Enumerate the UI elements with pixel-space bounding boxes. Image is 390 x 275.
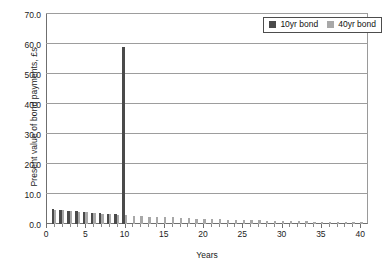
bar-40yr-bond xyxy=(282,221,284,224)
y-tick-label: 20.0 xyxy=(24,160,41,170)
bar-40yr-bond xyxy=(211,219,213,224)
x-tick-minor xyxy=(62,224,63,227)
bar-40yr-bond xyxy=(329,222,331,224)
bar-40yr-bond xyxy=(235,220,237,224)
bar-40yr-bond xyxy=(101,214,103,225)
bar-40yr-bond xyxy=(321,222,323,224)
y-tick-label: 70.0 xyxy=(24,10,41,20)
x-tick-minor xyxy=(305,224,306,227)
x-tick-major xyxy=(360,224,361,228)
x-tick-minor xyxy=(187,224,188,227)
x-tick-label: 20 xyxy=(198,229,207,239)
x-tick-major xyxy=(282,224,283,228)
bar-40yr-bond xyxy=(93,213,95,224)
x-tick-minor xyxy=(258,224,259,227)
gridline xyxy=(46,73,368,74)
x-tick-minor xyxy=(77,224,78,227)
bar-40yr-bond xyxy=(266,221,268,224)
bar-40yr-bond xyxy=(164,217,166,224)
x-tick-major xyxy=(46,224,47,228)
x-tick-minor xyxy=(227,224,228,227)
bar-40yr-bond xyxy=(125,215,127,224)
x-tick-minor xyxy=(140,224,141,227)
x-tick-major xyxy=(242,224,243,228)
x-tick-minor xyxy=(101,224,102,227)
x-tick-minor xyxy=(250,224,251,227)
bar-40yr-bond xyxy=(250,220,252,224)
bar-10yr-bond xyxy=(52,209,54,224)
bar-40yr-bond xyxy=(352,222,354,224)
bar-40yr-bond xyxy=(243,220,245,224)
legend-label-10yr: 10yr bond xyxy=(280,20,318,29)
x-tick-label: 15 xyxy=(159,229,168,239)
bar-40yr-bond xyxy=(85,212,87,224)
bar-40yr-bond xyxy=(298,221,300,224)
bar-40yr-bond xyxy=(54,210,56,224)
x-axis-title: Years xyxy=(46,250,368,260)
x-tick-label: 10 xyxy=(120,229,129,239)
x-tick-minor xyxy=(352,224,353,227)
x-tick-major xyxy=(164,224,165,228)
bar-40yr-bond xyxy=(78,212,80,224)
bar-40yr-bond xyxy=(188,218,190,224)
bar-40yr-bond xyxy=(274,221,276,224)
x-tick-label: 0 xyxy=(44,229,49,239)
chart-legend: 10yr bond 40yr bond xyxy=(263,17,382,33)
bar-10yr-bond xyxy=(122,47,124,224)
x-tick-major xyxy=(125,224,126,228)
y-tick-label: 60.0 xyxy=(24,40,41,50)
bar-40yr-bond xyxy=(219,219,221,224)
bar-40yr-bond xyxy=(117,215,119,224)
x-tick-minor xyxy=(297,224,298,227)
x-tick-minor xyxy=(219,224,220,227)
x-tick-minor xyxy=(234,224,235,227)
bar-40yr-bond xyxy=(227,220,229,225)
x-tick-major xyxy=(321,224,322,228)
gridline xyxy=(46,133,368,134)
bar-10yr-bond xyxy=(59,210,61,224)
x-tick-minor xyxy=(132,224,133,227)
x-tick-minor xyxy=(211,224,212,227)
bar-40yr-bond xyxy=(290,221,292,224)
x-tick-minor xyxy=(180,224,181,227)
gridline xyxy=(46,43,368,44)
y-tick-label: 10.0 xyxy=(24,190,41,200)
bar-40yr-bond xyxy=(345,222,347,224)
bar-10yr-bond xyxy=(107,214,109,224)
x-tick-minor xyxy=(156,224,157,227)
x-tick-major xyxy=(203,224,204,228)
bar-10yr-bond xyxy=(114,214,116,224)
bar-10yr-bond xyxy=(99,213,101,224)
y-tick-label: 40.0 xyxy=(24,100,41,110)
x-tick-minor xyxy=(337,224,338,227)
gridline xyxy=(46,163,368,164)
bar-10yr-bond xyxy=(67,211,69,225)
x-tick-minor xyxy=(117,224,118,227)
bar-40yr-bond xyxy=(313,222,315,224)
bar-10yr-bond xyxy=(91,213,93,224)
x-tick-label: 35 xyxy=(316,229,325,239)
x-tick-minor xyxy=(329,224,330,227)
bond-payments-chart: Present value of bond payments, £s 0.010… xyxy=(0,0,390,275)
gridline xyxy=(46,193,368,194)
bar-40yr-bond xyxy=(133,216,135,224)
bar-40yr-bond xyxy=(195,219,197,224)
gridline xyxy=(46,103,368,104)
bar-40yr-bond xyxy=(109,214,111,224)
x-tick-label: 40 xyxy=(355,229,364,239)
bar-40yr-bond xyxy=(140,216,142,224)
x-tick-minor xyxy=(172,224,173,227)
bar-40yr-bond xyxy=(203,219,205,224)
x-tick-major xyxy=(85,224,86,228)
legend-swatch-icon-40yr xyxy=(327,21,334,28)
bar-40yr-bond xyxy=(70,211,72,224)
y-tick-label: 0.0 xyxy=(29,220,41,230)
legend-swatch-icon-10yr xyxy=(269,21,276,28)
y-tick-label: 30.0 xyxy=(24,130,41,140)
bar-40yr-bond xyxy=(156,217,158,224)
x-tick-minor xyxy=(70,224,71,227)
y-tick-label: 50.0 xyxy=(24,70,41,80)
x-tick-minor xyxy=(266,224,267,227)
bar-40yr-bond xyxy=(180,218,182,224)
x-tick-label: 25 xyxy=(238,229,247,239)
